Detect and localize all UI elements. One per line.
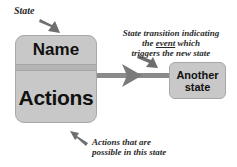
actions-label-line2: possible in this state — [92, 147, 166, 157]
state-name-section: Name — [16, 36, 96, 64]
actions-label-line1: Actions that are — [92, 137, 166, 147]
state-actions-section: Actions — [16, 71, 96, 123]
transition-label: State transition indicating the event wh… — [101, 28, 237, 58]
transition-label-line1: State transition indicating — [101, 28, 237, 38]
another-state-line2: state — [176, 81, 218, 93]
state-divider — [16, 64, 96, 71]
another-state-box: Another state — [169, 62, 226, 99]
state-name: Name — [33, 40, 79, 60]
transition-label-line2: the event which — [101, 38, 237, 48]
state-box: Name Actions — [15, 35, 97, 123]
another-state-line1: Another — [176, 69, 218, 81]
state-pointer-arrow-icon — [39, 19, 60, 33]
actions-label: Actions that are possible in this state — [92, 137, 166, 157]
transition-label-line3: triggers the new state — [101, 48, 237, 58]
state-label: State — [14, 6, 35, 16]
state-actions: Actions — [19, 86, 94, 110]
event-word: event — [156, 38, 176, 48]
actions-pointer-arrow-icon — [70, 131, 88, 146]
